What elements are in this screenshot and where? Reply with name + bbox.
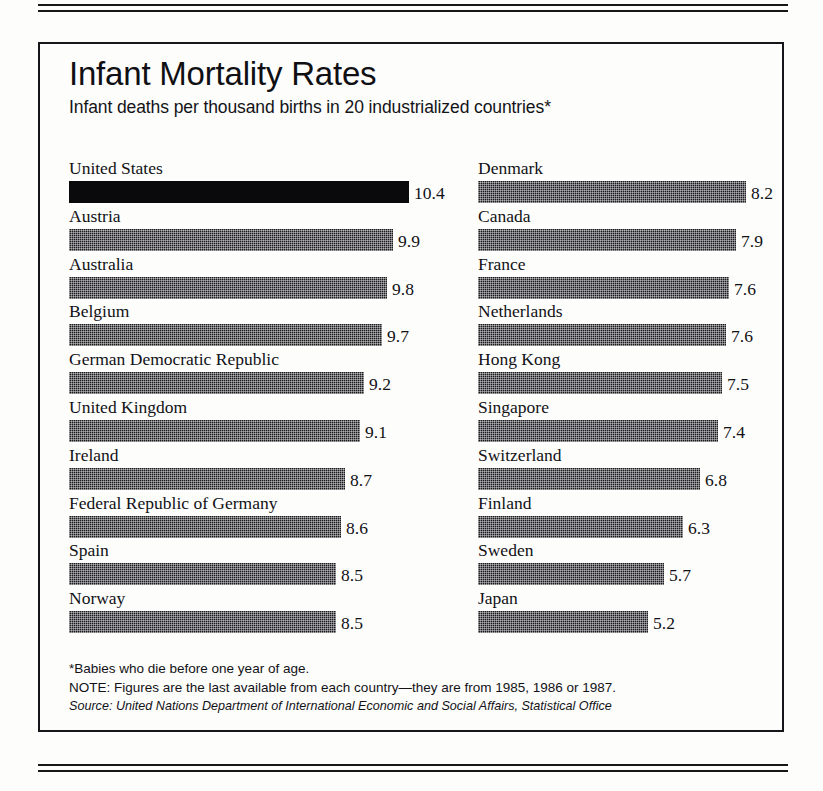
bottom-rule-line-1	[38, 764, 788, 766]
bar-label: Japan	[478, 590, 518, 608]
bar-row: Japan5.2	[478, 590, 818, 638]
bar-fill	[69, 611, 336, 633]
bottom-double-rule	[38, 764, 788, 773]
bar-value: 9.8	[392, 281, 414, 299]
bar-track: 9.8	[69, 277, 409, 299]
bar-label: Federal Republic of Germany	[69, 495, 277, 513]
bar-fill	[69, 372, 364, 394]
bar-row: France7.6	[478, 256, 818, 304]
bar-row: German Democratic Republic9.2	[69, 351, 409, 399]
bar-fill	[69, 229, 393, 251]
bar-value: 7.6	[734, 281, 756, 299]
bar-fill	[69, 420, 360, 442]
top-double-rule	[38, 4, 788, 13]
bar-label: Switzerland	[478, 447, 562, 465]
bar-row: Finland6.3	[478, 495, 818, 543]
bar-track: 9.9	[69, 229, 409, 251]
chart-panel-inner: Infant Mortality Rates Infant deaths per…	[69, 57, 768, 720]
bar-label: United States	[69, 160, 163, 178]
bar-fill	[69, 468, 345, 490]
bar-label: Australia	[69, 256, 133, 274]
bar-row: Switzerland6.8	[478, 447, 818, 495]
footnote-source: Source: United Nations Department of Int…	[69, 698, 769, 716]
bar-row: Ireland8.7	[69, 447, 409, 495]
bar-track: 7.6	[478, 277, 818, 299]
bar-label: Singapore	[478, 399, 549, 417]
chart-panel: Infant Mortality Rates Infant deaths per…	[38, 42, 784, 732]
chart-subtitle: Infant deaths per thousand births in 20 …	[69, 98, 768, 117]
bar-row: Belgium9.7	[69, 303, 409, 351]
bar-label: Ireland	[69, 447, 119, 465]
bar-row: Austria9.9	[69, 208, 409, 256]
bar-row: Hong Kong7.5	[478, 351, 818, 399]
bar-label: Canada	[478, 208, 530, 226]
page-title: Infant Mortality Rates	[69, 57, 768, 92]
bar-label: Norway	[69, 590, 125, 608]
bar-fill	[478, 420, 718, 442]
bar-track: 8.2	[478, 181, 818, 203]
bar-label: Denmark	[478, 160, 543, 178]
bar-track: 9.2	[69, 372, 409, 394]
bar-track: 8.6	[69, 516, 409, 538]
bar-track: 6.8	[478, 468, 818, 490]
bar-value: 9.9	[398, 233, 420, 251]
bar-value: 7.6	[731, 328, 753, 346]
bar-row: Netherlands7.6	[478, 303, 818, 351]
bar-label: Austria	[69, 208, 121, 226]
bar-value: 9.1	[365, 424, 387, 442]
bar-row: United Kingdom9.1	[69, 399, 409, 447]
bar-value: 8.5	[341, 615, 363, 633]
bar-label: Netherlands	[478, 303, 563, 321]
bar-fill	[69, 516, 341, 538]
bar-fill	[478, 324, 726, 346]
bar-track: 9.7	[69, 324, 409, 346]
bar-fill	[69, 563, 336, 585]
top-rule-line-2	[38, 10, 788, 12]
bar-row: Australia9.8	[69, 256, 409, 304]
bar-value: 5.2	[653, 615, 675, 633]
bar-label: France	[478, 256, 526, 274]
bar-value: 7.9	[741, 233, 763, 251]
bar-value: 8.7	[350, 472, 372, 490]
bar-value: 9.2	[369, 376, 391, 394]
bar-value: 8.2	[751, 185, 773, 203]
bar-track: 8.5	[69, 611, 409, 633]
bar-label: Finland	[478, 495, 531, 513]
bar-column-right: Denmark8.2Canada7.9France7.6Netherlands7…	[478, 160, 818, 638]
bar-row: United States10.4	[69, 160, 409, 208]
bar-value: 6.8	[705, 472, 727, 490]
bar-value: 5.7	[669, 567, 691, 585]
bar-fill	[69, 324, 382, 346]
bar-label: Sweden	[478, 542, 533, 560]
bar-track: 10.4	[69, 181, 409, 203]
bottom-rule-line-2	[38, 770, 788, 772]
footnotes: *Babies who die before one year of age. …	[69, 659, 769, 716]
top-rule-line-1	[38, 4, 788, 6]
bar-track: 7.6	[478, 324, 818, 346]
bar-track: 7.5	[478, 372, 818, 394]
bar-label: German Democratic Republic	[69, 351, 279, 369]
bar-row: Spain8.5	[69, 542, 409, 590]
bar-value: 8.6	[346, 520, 368, 538]
bar-value: 9.7	[387, 328, 409, 346]
bar-label: Hong Kong	[478, 351, 560, 369]
bar-row: Federal Republic of Germany8.6	[69, 495, 409, 543]
bar-track: 5.7	[478, 563, 818, 585]
bar-row: Singapore7.4	[478, 399, 818, 447]
bar-row: Denmark8.2	[478, 160, 818, 208]
chart-body: United States10.4Austria9.9Australia9.8B…	[69, 160, 768, 638]
bar-fill	[69, 277, 387, 299]
bar-fill	[478, 277, 729, 299]
bar-row: Sweden5.7	[478, 542, 818, 590]
bar-track: 7.9	[478, 229, 818, 251]
bar-label: United Kingdom	[69, 399, 187, 417]
bar-fill	[69, 181, 409, 203]
bar-track: 5.2	[478, 611, 818, 633]
bar-track: 9.1	[69, 420, 409, 442]
bar-fill	[478, 468, 700, 490]
bar-fill	[478, 229, 736, 251]
bar-value: 6.3	[688, 520, 710, 538]
bar-fill	[478, 563, 664, 585]
bar-value: 7.4	[723, 424, 745, 442]
bar-fill	[478, 181, 746, 203]
